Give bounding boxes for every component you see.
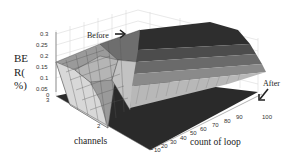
svg-text:20: 20 (161, 143, 168, 149)
svg-text:60: 60 (200, 126, 207, 132)
svg-text:40: 40 (180, 135, 187, 141)
svg-text:100: 100 (262, 114, 273, 120)
z-label: R( (14, 66, 25, 79)
z-ticks: 0.3 0.25 0.2 0.15 0.1 0.05 0 3 (36, 31, 50, 103)
z-label: %) (14, 79, 27, 92)
z-tick: 0.1 (40, 75, 49, 81)
svg-text:30: 30 (170, 139, 177, 145)
z-tick: 0.3 (40, 31, 49, 37)
y-axis-label: channels (74, 136, 108, 146)
z-label: BE (14, 52, 28, 64)
svg-text:50: 50 (190, 130, 197, 136)
y-tick: 2 (97, 123, 101, 129)
before-annotation: Before (87, 31, 109, 40)
y-tick: 3 (46, 97, 50, 103)
arrow-down-left-icon (259, 89, 268, 100)
x-axis-label: count of loop (190, 137, 241, 147)
z-tick: 0.2 (40, 53, 49, 59)
svg-text:70: 70 (212, 122, 219, 128)
z-tick: 0.25 (36, 42, 48, 48)
svg-text:80: 80 (224, 118, 231, 124)
after-annotation: After (263, 79, 280, 88)
svg-text:90: 90 (236, 114, 243, 120)
surface-chart: 0.3 0.25 0.2 0.15 0.1 0.05 0 3 (0, 0, 298, 155)
z-tick: 0.15 (36, 64, 48, 70)
